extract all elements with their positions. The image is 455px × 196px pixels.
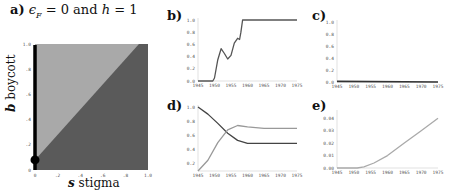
series-c-line bbox=[337, 81, 438, 82]
svg-text:1970: 1970 bbox=[275, 83, 286, 88]
svg-text:1945: 1945 bbox=[193, 83, 204, 88]
svg-text:0: 0 bbox=[34, 173, 37, 178]
svg-text:0.6: 0.6 bbox=[187, 42, 195, 47]
svg-text:1960: 1960 bbox=[382, 84, 393, 89]
svg-text:.6: .6 bbox=[26, 92, 32, 97]
svg-text:0.6: 0.6 bbox=[326, 44, 334, 49]
svg-text:1975: 1975 bbox=[292, 83, 303, 88]
svg-text:0.04: 0.04 bbox=[323, 116, 334, 121]
panel-c-plot: 19451950195519601965197019750.00.20.40.6… bbox=[326, 20, 444, 90]
svg-text:1955: 1955 bbox=[226, 173, 237, 178]
svg-text:0.0: 0.0 bbox=[187, 79, 195, 84]
svg-text:1970: 1970 bbox=[416, 170, 427, 175]
svg-text:1945: 1945 bbox=[332, 84, 343, 89]
svg-text:0.2: 0.2 bbox=[187, 66, 195, 71]
svg-text:0.4: 0.4 bbox=[326, 56, 334, 61]
svg-text:1975: 1975 bbox=[433, 170, 444, 175]
svg-text:.4: .4 bbox=[77, 173, 83, 178]
series-dark-line bbox=[198, 107, 297, 143]
svg-text:0.03: 0.03 bbox=[323, 128, 334, 133]
svg-text:1960: 1960 bbox=[382, 170, 393, 175]
svg-text:1960: 1960 bbox=[242, 83, 253, 88]
svg-text:1.0: 1.0 bbox=[23, 42, 31, 47]
svg-text:0.2: 0.2 bbox=[326, 68, 334, 73]
svg-text:1950: 1950 bbox=[348, 84, 359, 89]
svg-text:1.0: 1.0 bbox=[326, 20, 334, 25]
svg-text:1975: 1975 bbox=[292, 173, 303, 178]
svg-text:1970: 1970 bbox=[275, 173, 286, 178]
series-b-line bbox=[198, 20, 297, 81]
svg-text:1950: 1950 bbox=[209, 83, 220, 88]
svg-text:0.02: 0.02 bbox=[323, 141, 334, 146]
svg-text:0.01: 0.01 bbox=[323, 153, 334, 158]
panel-e-plot: 19451950195519601965197019750.000.010.02… bbox=[323, 110, 444, 175]
svg-text:0.4: 0.4 bbox=[187, 147, 195, 152]
svg-text:1965: 1965 bbox=[259, 173, 270, 178]
svg-text:1960: 1960 bbox=[242, 173, 253, 178]
equilibrium-marker bbox=[31, 155, 40, 164]
svg-text:1.0: 1.0 bbox=[187, 18, 195, 23]
svg-text:0.0: 0.0 bbox=[326, 80, 334, 85]
svg-text:1965: 1965 bbox=[399, 84, 410, 89]
svg-text:1965: 1965 bbox=[259, 83, 270, 88]
svg-text:1955: 1955 bbox=[365, 170, 376, 175]
svg-text:.8: .8 bbox=[123, 173, 129, 178]
panel-a-plot: 0.2.4.6.81.00.2.4.6.81.0 bbox=[23, 42, 152, 179]
svg-text:0.6: 0.6 bbox=[187, 133, 195, 138]
figure-canvas: 0.2.4.6.81.00.2.4.6.81.01945195019551960… bbox=[0, 0, 455, 196]
svg-text:1970: 1970 bbox=[416, 84, 427, 89]
svg-text:1975: 1975 bbox=[433, 84, 444, 89]
svg-text:.2: .2 bbox=[26, 142, 32, 147]
svg-text:1.0: 1.0 bbox=[187, 105, 195, 110]
svg-text:1945: 1945 bbox=[193, 173, 204, 178]
svg-text:.8: .8 bbox=[26, 67, 32, 72]
svg-text:0.8: 0.8 bbox=[187, 30, 195, 35]
panel-d-plot: 19451950195519601965197019750.20.40.60.8… bbox=[187, 105, 303, 179]
svg-text:1955: 1955 bbox=[226, 83, 237, 88]
svg-text:.4: .4 bbox=[26, 117, 32, 122]
series-e-line bbox=[337, 118, 438, 168]
svg-text:.2: .2 bbox=[55, 173, 61, 178]
svg-text:0.00: 0.00 bbox=[323, 166, 334, 171]
svg-text:1950: 1950 bbox=[348, 170, 359, 175]
svg-text:1950: 1950 bbox=[209, 173, 220, 178]
svg-text:1965: 1965 bbox=[399, 170, 410, 175]
svg-text:0: 0 bbox=[28, 168, 31, 173]
panel-b-plot: 19451950195519601965197019750.00.20.40.6… bbox=[187, 18, 303, 89]
svg-text:1955: 1955 bbox=[365, 84, 376, 89]
svg-text:1945: 1945 bbox=[332, 170, 343, 175]
svg-text:0.2: 0.2 bbox=[187, 161, 195, 166]
svg-text:.6: .6 bbox=[100, 173, 106, 178]
svg-text:0.8: 0.8 bbox=[326, 32, 334, 37]
svg-text:1.0: 1.0 bbox=[144, 173, 152, 178]
svg-text:0.4: 0.4 bbox=[187, 54, 195, 59]
series-light-line bbox=[198, 126, 297, 172]
svg-text:0.8: 0.8 bbox=[187, 119, 195, 124]
